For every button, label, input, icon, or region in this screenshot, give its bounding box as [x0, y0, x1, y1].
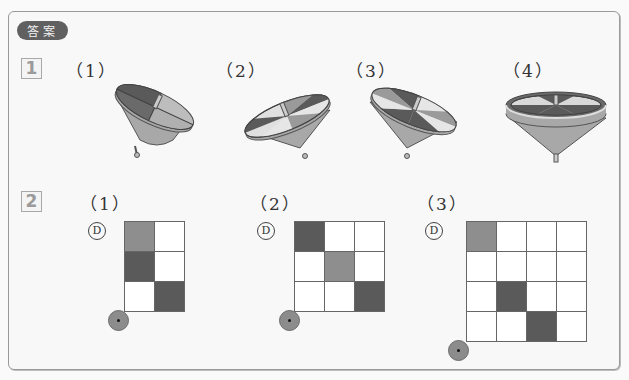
- grid-cell: [295, 222, 325, 252]
- grid-cell: [467, 222, 497, 252]
- grid-cell: [295, 282, 325, 312]
- item-label-1-2: （2）: [216, 57, 267, 82]
- grid-cell: [355, 282, 385, 312]
- grid-cell: [497, 282, 527, 312]
- grid-3: [466, 221, 587, 342]
- grid-cell: [155, 222, 185, 252]
- d-mark-2: D: [257, 222, 275, 240]
- d-mark-1: D: [88, 222, 106, 240]
- grid-cell: [467, 282, 497, 312]
- spinning-top-3: [362, 80, 472, 160]
- grid-cell: [467, 312, 497, 342]
- item-label-1-3: （3）: [346, 57, 397, 82]
- item-label-1-1: （1）: [66, 57, 117, 82]
- grid-cell: [527, 312, 557, 342]
- grid-cell: [557, 222, 587, 252]
- item-label-2-1: （1）: [80, 190, 131, 215]
- grid-cell: [497, 252, 527, 282]
- grid-cell: [497, 222, 527, 252]
- grid-cell: [125, 282, 155, 312]
- grid-cell: [325, 252, 355, 282]
- spinning-top-1: [105, 80, 215, 160]
- answer-badge: 答案: [17, 21, 68, 40]
- spinning-top-2: [235, 80, 345, 160]
- grid-cell: [497, 312, 527, 342]
- grid-cell: [557, 312, 587, 342]
- grid-2: [294, 221, 385, 312]
- grid-cell: [155, 252, 185, 282]
- grid-cell: [527, 252, 557, 282]
- grid-cell: [557, 252, 587, 282]
- question-number-1: 1: [21, 58, 42, 79]
- spinning-top-4: [496, 82, 621, 164]
- d-mark-3: D: [425, 222, 443, 240]
- grid-cell: [527, 282, 557, 312]
- grid-cell: [467, 252, 497, 282]
- grid-cell: [325, 282, 355, 312]
- grid-cell: [125, 252, 155, 282]
- grid-cell: [557, 282, 587, 312]
- grid-cell: [355, 252, 385, 282]
- item-label-2-2: （2）: [250, 190, 301, 215]
- start-marker-1: [108, 310, 129, 331]
- item-label-1-4: （4）: [503, 57, 554, 82]
- start-marker-3: [448, 340, 469, 361]
- grid-cell: [325, 222, 355, 252]
- question-number-2: 2: [21, 191, 42, 212]
- start-marker-2: [279, 310, 300, 331]
- grid-cell: [155, 282, 185, 312]
- grid-cell: [125, 222, 155, 252]
- item-label-2-3: （3）: [417, 190, 468, 215]
- grid-1: [124, 221, 185, 312]
- grid-cell: [355, 222, 385, 252]
- grid-cell: [295, 252, 325, 282]
- grid-cell: [527, 222, 557, 252]
